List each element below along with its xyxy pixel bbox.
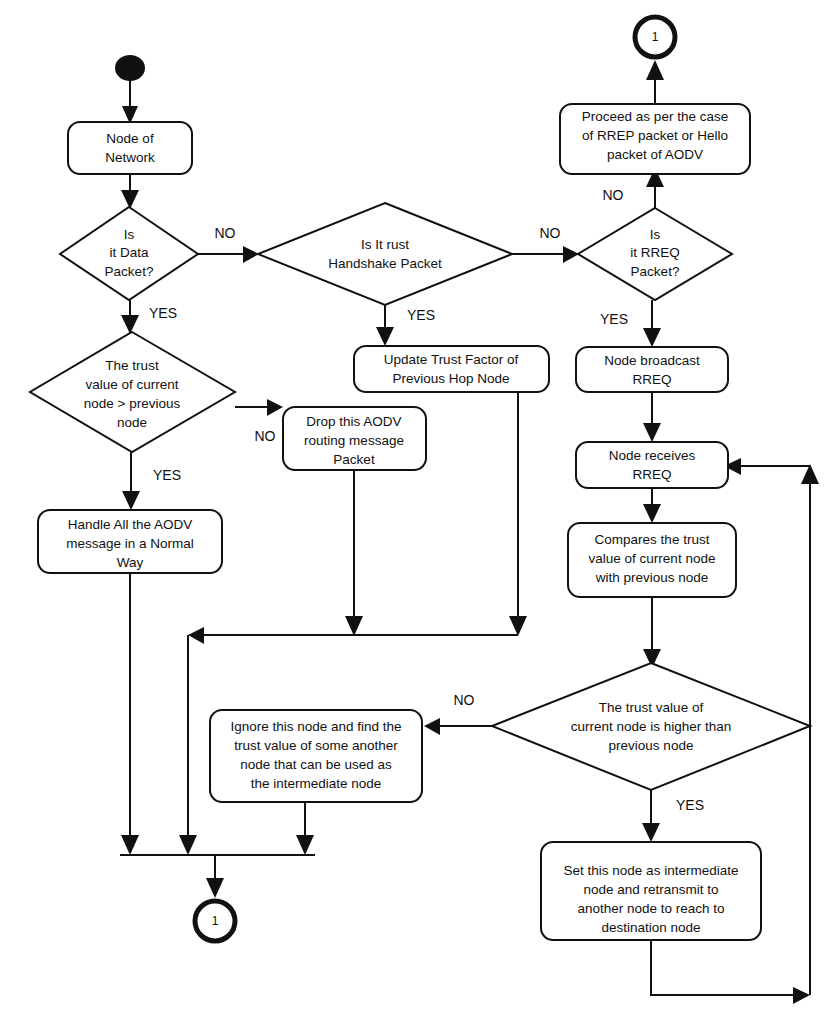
drop-aodv-packet-line3: Packet — [333, 452, 375, 467]
edge-drop-packet-to-merge — [345, 470, 363, 636]
flowchart-canvas: Node of Network Is it Data Packet? Is It… — [0, 0, 836, 1011]
decision-is-trust-handshake-packet[interactable]: Is It rust Handshake Packet — [258, 203, 512, 305]
edge-label-higher-no: NO — [454, 692, 475, 708]
edge-label-trust-no: NO — [255, 428, 276, 444]
edge-network-to-data-packet — [121, 173, 139, 209]
compares-trust-value-line3: with previous node — [595, 570, 709, 585]
start-terminal — [115, 55, 145, 81]
decision-trust-gt-previous[interactable]: The trust value of current node > previo… — [30, 332, 235, 452]
is-rreq-packet-line2: it RREQ — [630, 245, 680, 260]
is-trust-handshake-line2: Handshake Packet — [328, 256, 442, 271]
connector-bottom-label: 1 — [212, 914, 219, 928]
trust-higher-line2: current node is higher than — [571, 719, 732, 734]
edge-data-packet-no — [198, 246, 259, 263]
decision-trust-higher-than-previous[interactable]: The trust value of current node is highe… — [492, 663, 810, 790]
is-data-packet-line1: Is — [124, 227, 135, 242]
trust-gt-previous-line3: node > previous — [84, 396, 181, 411]
node-broadcast-rreq-line1: Node broadcast — [604, 353, 700, 368]
handle-aodv-normal-line1: Handle All the AODV — [68, 517, 193, 532]
ignore-node-line2: trust value of some another — [234, 738, 398, 753]
node-of-network-line1: Node of — [106, 131, 154, 146]
node-ignore-node-find-other[interactable]: Ignore this node and find the trust valu… — [210, 710, 422, 802]
ignore-node-line1: Ignore this node and find the — [230, 719, 401, 734]
edge-ignore-node-to-bottom-merge — [296, 802, 314, 855]
is-data-packet-line3: Packet? — [105, 264, 154, 279]
node-set-intermediate-node[interactable]: Set this node as intermediate node and r… — [541, 842, 761, 940]
ignore-node-line4: the intermediate node — [251, 776, 382, 791]
node-update-trust-factor[interactable]: Update Trust Factor of Previous Hop Node — [354, 346, 549, 392]
edge-label-higher-yes: YES — [676, 797, 704, 813]
edge-handshake-no — [512, 246, 579, 263]
edge-label-rreq-yes: YES — [600, 311, 628, 327]
edge-rreq-yes — [643, 300, 661, 347]
decision-is-rreq-packet[interactable]: Is it RREQ Packet? — [578, 208, 732, 300]
ignore-node-line3: node that can be used as — [240, 757, 392, 772]
edge-broadcast-to-receives — [643, 392, 661, 442]
node-receives-rreq-line2: RREQ — [632, 467, 671, 482]
drop-aodv-packet-line1: Drop this AODV — [306, 414, 401, 429]
proceed-rrep-hello-line2: of RREP packet or Hello — [582, 128, 728, 143]
flowchart-svg: Node of Network Is it Data Packet? Is It… — [0, 0, 836, 1011]
edge-receives-to-compares — [643, 488, 661, 523]
is-rreq-packet-line3: Packet? — [631, 264, 680, 279]
edge-label-handshake-yes: YES — [407, 307, 435, 323]
edge-handshake-yes — [376, 305, 394, 346]
connector-top-label: 1 — [652, 30, 659, 44]
node-compares-trust-value[interactable]: Compares the trust value of current node… — [568, 523, 736, 597]
trust-gt-previous-line4: node — [117, 415, 147, 430]
merge-line-bottom — [120, 855, 315, 898]
connector-circle-top[interactable]: 1 — [635, 17, 675, 57]
trust-higher-line1: The trust value of — [599, 700, 704, 715]
node-broadcast-rreq-line2: RREQ — [632, 372, 671, 387]
is-trust-handshake-line1: Is It rust — [361, 237, 409, 252]
edge-label-rreq-no: NO — [603, 187, 624, 203]
handle-aodv-normal-line2: message in a Normal — [66, 536, 194, 551]
trust-higher-line3: previous node — [609, 738, 694, 753]
is-data-packet-line2: it Data — [109, 245, 149, 260]
node-of-network-line2: Network — [105, 150, 155, 165]
edge-trust-yes — [122, 452, 140, 510]
node-node-receives-rreq[interactable]: Node receives RREQ — [576, 442, 728, 488]
node-node-of-network[interactable]: Node of Network — [68, 122, 192, 174]
edge-label-trust-yes: YES — [153, 467, 181, 483]
proceed-rrep-hello-line1: Proceed as per the case — [582, 109, 728, 124]
edge-higher-yes — [642, 790, 660, 842]
node-node-broadcast-rreq[interactable]: Node broadcast RREQ — [576, 347, 728, 392]
drop-aodv-packet-line2: routing message — [304, 433, 404, 448]
set-intermediate-line2: node and retransmit to — [583, 882, 718, 897]
connector-circle-bottom[interactable]: 1 — [195, 901, 235, 941]
node-receives-rreq-line1: Node receives — [609, 448, 696, 463]
decision-is-data-packet[interactable]: Is it Data Packet? — [60, 207, 198, 300]
update-trust-factor-line2: Previous Hop Node — [392, 371, 509, 386]
edge-update-trust-to-merge — [509, 392, 527, 636]
edge-handle-all-to-bottom-merge — [121, 573, 139, 855]
edge-trust-no — [235, 399, 283, 416]
edge-proceed-to-connector-top — [646, 60, 664, 104]
update-trust-factor-line1: Update Trust Factor of — [384, 352, 519, 367]
is-rreq-packet-line1: Is — [650, 227, 661, 242]
trust-gt-previous-line1: The trust — [105, 358, 159, 373]
set-intermediate-line1: Set this node as intermediate — [564, 863, 739, 878]
compares-trust-value-line2: value of current node — [589, 551, 716, 566]
proceed-rrep-hello-line3: packet of AODV — [607, 147, 703, 162]
edge-start-to-node-of-network — [122, 80, 138, 124]
node-proceed-rrep-hello[interactable]: Proceed as per the case of RREP packet o… — [560, 104, 750, 174]
edge-label-handshake-no: NO — [540, 225, 561, 241]
handle-aodv-normal-line3: Way — [117, 555, 144, 570]
node-handle-aodv-normal[interactable]: Handle All the AODV message in a Normal … — [38, 510, 222, 573]
edge-label-data-no: NO — [215, 225, 236, 241]
edge-data-packet-yes — [121, 300, 139, 334]
set-intermediate-line3: another node to reach to — [577, 901, 724, 916]
node-drop-aodv-packet[interactable]: Drop this AODV routing message Packet — [283, 407, 426, 470]
edge-label-data-yes: YES — [149, 305, 177, 321]
compares-trust-value-line1: Compares the trust — [595, 532, 710, 547]
edge-compares-to-higher-diamond — [643, 597, 661, 668]
trust-gt-previous-line2: value of current — [85, 377, 178, 392]
set-intermediate-line4: destination node — [601, 920, 700, 935]
